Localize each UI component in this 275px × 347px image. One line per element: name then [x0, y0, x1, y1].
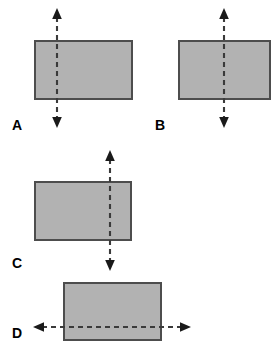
- axis-arrowhead-down-c: [105, 260, 115, 271]
- block-rect-a: [34, 40, 133, 100]
- panel-label-d: D: [12, 326, 22, 340]
- axis-arrowhead-left-d: [33, 322, 44, 332]
- axis-arrowhead-right-d: [180, 322, 191, 332]
- figure-canvas: A B C D: [0, 0, 275, 347]
- block-rect-b: [178, 40, 271, 100]
- axis-arrowhead-down-a: [52, 117, 62, 128]
- axis-arrowhead-up-a: [52, 8, 62, 19]
- axis-arrowhead-down-b: [219, 117, 229, 128]
- block-rect-c: [34, 181, 132, 241]
- axis-arrowhead-up-c: [105, 150, 115, 161]
- panel-label-b: B: [155, 118, 165, 132]
- block-rect-d: [63, 282, 162, 341]
- panel-label-a: A: [12, 118, 22, 132]
- panel-label-c: C: [12, 256, 22, 270]
- axis-arrowhead-up-b: [219, 8, 229, 19]
